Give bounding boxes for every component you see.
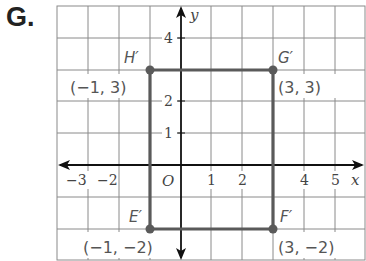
- point-g-coord: (3, 3): [278, 78, 321, 97]
- point-f-coord: (3, −2): [278, 238, 334, 257]
- point-e-coord: (−1, −2): [83, 238, 153, 257]
- y-tick-2: 2: [164, 93, 173, 109]
- point-g-marker: [269, 66, 278, 75]
- point-e-name: E′: [129, 208, 142, 226]
- y-tick-1: 1: [164, 125, 173, 141]
- point-f-marker: [269, 225, 278, 234]
- x-tick-neg3: −3: [66, 172, 87, 188]
- x-tick-4: 4: [300, 172, 309, 188]
- x-axis-label: x: [351, 171, 360, 189]
- x-tick-5: 5: [331, 172, 340, 188]
- grid: [57, 6, 365, 260]
- point-f-name: F′: [280, 208, 293, 226]
- point-h-name: H′: [124, 49, 139, 67]
- y-tick-4: 4: [164, 30, 173, 46]
- point-e-marker: [146, 225, 155, 234]
- origin-label: O: [162, 172, 174, 190]
- point-g-name: G′: [278, 49, 294, 67]
- point-h-marker: [146, 66, 155, 75]
- x-tick-1: 1: [207, 172, 216, 188]
- x-tick-neg2: −2: [97, 172, 118, 188]
- coordinate-plane: −3 −2 1 2 4 5 x 4 2 1 y O H′ (−1, 3) G′ …: [0, 0, 366, 261]
- x-tick-2: 2: [238, 172, 247, 188]
- point-h-coord: (−1, 3): [70, 78, 126, 97]
- y-axis-label: y: [189, 6, 199, 24]
